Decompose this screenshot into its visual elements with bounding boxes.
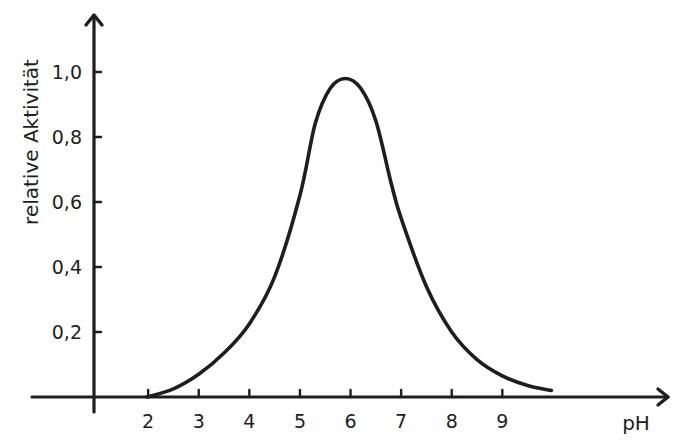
x-tick-label: 6 (344, 410, 356, 432)
x-tick-label: 3 (193, 410, 205, 432)
x-tick-label: 7 (395, 410, 407, 432)
y-tick-label: 0,8 (52, 126, 82, 148)
y-axis-label: relative Aktivität (19, 59, 43, 225)
y-tick-label: 0,6 (52, 191, 82, 213)
y-tick-label: 0,2 (52, 321, 82, 343)
ticks (94, 72, 502, 397)
series-group (146, 77, 553, 399)
x-tick-label: 2 (142, 410, 154, 432)
x-tick-label: 8 (446, 410, 458, 432)
y-tick-label: 0,4 (52, 256, 82, 278)
x-tick-label: 5 (294, 410, 306, 432)
chart: 234567890,20,40,60,81,0 pH relative Akti… (0, 0, 679, 444)
x-axis-label: pH (622, 411, 650, 435)
activity-curve (147, 79, 551, 398)
x-tick-label: 4 (243, 410, 255, 432)
y-tick-label: 1,0 (52, 61, 82, 83)
axes (32, 15, 668, 412)
tick-labels: 234567890,20,40,60,81,0 (52, 61, 509, 432)
x-tick-label: 9 (496, 410, 508, 432)
